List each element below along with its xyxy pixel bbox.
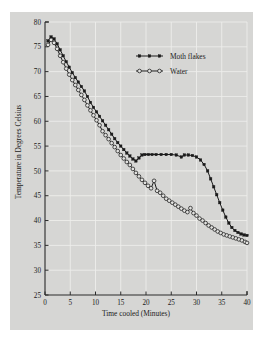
data-point <box>129 155 132 158</box>
data-point <box>92 113 96 117</box>
y-axis-title: Temperature in Degrees Celsius <box>14 105 23 200</box>
data-point <box>122 157 126 161</box>
cooling-curve-chart: 0510152025303540 25303540455055606570758… <box>10 12 253 330</box>
data-point <box>170 153 173 156</box>
data-point <box>144 153 147 156</box>
x-axis-title: Time cooled (Minutes) <box>102 309 170 318</box>
data-point <box>110 133 113 136</box>
legend-marker <box>158 55 161 58</box>
data-point <box>86 104 90 108</box>
data-point <box>46 43 50 47</box>
data-point <box>98 123 102 127</box>
data-point <box>231 226 234 229</box>
data-point <box>89 101 92 104</box>
y-tick-label: 80 <box>34 19 42 27</box>
data-point <box>113 145 117 149</box>
data-point <box>107 137 111 141</box>
data-point <box>151 153 154 156</box>
data-point <box>189 206 193 210</box>
data-point <box>240 233 243 236</box>
data-point <box>195 214 199 218</box>
y-tick-label: 30 <box>34 267 42 275</box>
data-point <box>74 76 77 79</box>
y-tick-label: 35 <box>34 242 42 250</box>
data-point <box>158 191 162 195</box>
chart-panel: 0510152025303540 25303540455055606570758… <box>10 12 253 330</box>
data-point <box>186 210 190 214</box>
data-point <box>155 153 158 156</box>
data-point <box>187 154 190 157</box>
data-point <box>140 178 144 182</box>
x-tick-label: 40 <box>243 299 251 307</box>
data-point <box>141 154 144 157</box>
data-point <box>135 160 138 163</box>
data-point <box>71 71 74 74</box>
data-point <box>180 156 183 159</box>
y-tick-label: 60 <box>34 118 42 126</box>
data-point <box>83 90 86 93</box>
data-point <box>243 234 246 237</box>
data-point <box>137 175 141 179</box>
data-point <box>228 222 231 225</box>
legend-marker <box>138 69 142 73</box>
data-point <box>64 67 68 71</box>
data-point <box>67 73 71 77</box>
data-point <box>215 193 218 196</box>
data-point <box>138 157 141 160</box>
data-point <box>209 178 212 181</box>
data-point <box>68 66 71 69</box>
series-moth-flakes <box>47 36 248 237</box>
data-point <box>165 153 168 156</box>
data-point <box>73 83 77 87</box>
data-point <box>61 60 65 64</box>
data-point <box>191 154 194 157</box>
data-point <box>77 81 80 84</box>
data-point <box>76 88 80 92</box>
data-point <box>120 145 123 148</box>
data-point <box>104 124 107 127</box>
y-tick-label: 75 <box>34 43 42 51</box>
data-point <box>161 194 165 198</box>
data-point <box>116 141 119 144</box>
data-point <box>70 78 74 82</box>
data-point <box>175 154 178 157</box>
data-point <box>218 201 221 204</box>
data-point <box>125 160 129 164</box>
series-water <box>46 38 249 245</box>
data-point <box>131 167 135 171</box>
figure-container: 0510152025303540 25303540455055606570758… <box>0 0 262 342</box>
data-point <box>49 38 53 42</box>
y-tick-label: 50 <box>34 168 42 176</box>
x-tick-label: 30 <box>193 299 201 307</box>
data-point <box>128 163 132 167</box>
y-tick-label: 25 <box>34 292 42 300</box>
data-point <box>58 54 62 58</box>
x-tick-label: 0 <box>43 299 47 307</box>
data-point <box>225 216 228 219</box>
data-point <box>86 95 89 98</box>
legend-marker <box>148 69 152 73</box>
data-point <box>160 153 163 156</box>
x-axis-tick-labels: 0510152025303540 <box>43 299 251 307</box>
data-point <box>123 148 126 151</box>
data-point <box>222 209 225 212</box>
data-point <box>195 156 198 159</box>
data-point <box>126 152 129 155</box>
y-tick-label: 65 <box>34 93 42 101</box>
data-point <box>246 234 249 237</box>
data-point <box>83 98 87 102</box>
y-tick-label: 70 <box>34 68 42 76</box>
data-point <box>55 47 59 51</box>
data-point <box>95 111 98 114</box>
data-point <box>132 158 135 161</box>
y-tick-label: 40 <box>34 217 42 225</box>
data-point <box>80 85 83 88</box>
data-point <box>237 231 240 234</box>
legend-label: Moth flakes <box>170 52 206 61</box>
data-series <box>46 36 249 245</box>
data-point <box>95 118 99 122</box>
x-tick-label: 35 <box>218 299 226 307</box>
x-tick-label: 15 <box>117 299 125 307</box>
gridlines <box>45 22 247 295</box>
data-point <box>113 137 116 140</box>
